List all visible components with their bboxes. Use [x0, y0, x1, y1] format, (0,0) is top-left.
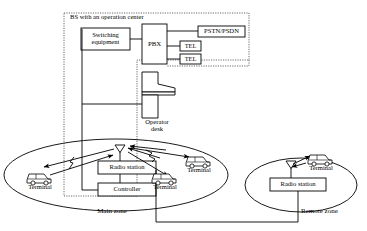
pstn-psdn-label: PSTN/PSDN — [198, 26, 245, 37]
radio-station-main-label: Radio station — [98, 161, 156, 174]
tel-label-2: TEL — [180, 54, 201, 64]
radio-station-remote-label: Radio station — [270, 178, 326, 191]
radio-link-right-terminal-to-antenna-2 — [130, 146, 166, 150]
main-zone-label: Main zone — [82, 208, 142, 215]
terminal-label-remote: Terminal — [299, 165, 343, 172]
operator-desk-label: Operator desk — [133, 119, 181, 133]
pbx-label: PBX — [142, 24, 167, 64]
remote-zone-label: Remote zone — [301, 208, 363, 215]
diagram-vector-layer — [0, 0, 367, 231]
radio-link-remote-antenna-to-terminal — [293, 156, 310, 164]
operator-desk-label-line2: desk — [133, 126, 181, 133]
radio-link-right-terminal-to-antenna — [128, 148, 160, 158]
terminal-label-main-bottom: Terminal — [143, 184, 187, 191]
network-architecture-diagram: BS with an operation center Switching eq… — [0, 0, 367, 231]
bs-boundary-label: BS with an operation center — [70, 14, 144, 21]
terminal-label-main-right: Terminal — [177, 167, 221, 174]
switching-equipment-label: Switching equipment — [81, 28, 130, 50]
operator-desk-upper — [142, 72, 175, 92]
antenna-main-icon — [115, 145, 125, 161]
switching-equipment-label-line2: equipment — [92, 39, 120, 46]
tel-label-1: TEL — [180, 41, 201, 51]
operator-desk-pedestal — [142, 95, 158, 118]
terminal-label-main-left: Terminal — [18, 184, 62, 191]
